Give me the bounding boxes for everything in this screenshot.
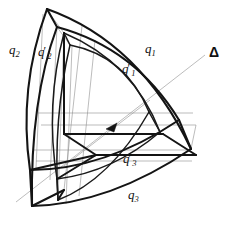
link-right-vert — [191, 125, 196, 149]
label-q2: q2 — [9, 43, 20, 56]
label-q1: q1 — [145, 42, 156, 55]
outer-arc-q1-back — [57, 27, 179, 120]
label-q3-prime: q′3 — [123, 152, 136, 165]
label-q2-sub: 2 — [16, 49, 20, 59]
label-q2p-prime: ′ — [44, 44, 47, 58]
label-q1p-sub: 1 — [131, 68, 135, 78]
label-q1-prime: q′1 — [122, 62, 135, 75]
inner-shell — [52, 33, 160, 200]
outer-shell — [26, 9, 191, 206]
construction-lines — [16, 10, 205, 206]
inner-edge-bottomleft — [57, 179, 58, 200]
outer-arc-q3 — [32, 149, 191, 206]
label-q1-base: q — [145, 41, 152, 56]
frame-right-diagonal — [163, 134, 196, 155]
interior-frame — [30, 33, 196, 206]
label-q2-prime: q′2 — [38, 45, 51, 58]
label-q2-base: q — [9, 42, 16, 57]
label-delta: Δ — [209, 45, 219, 59]
label-q2p-sub: 2 — [47, 51, 51, 61]
inner-edge-right — [149, 112, 160, 132]
label-q3: q3 — [128, 188, 139, 201]
label-q1p-prime: ′ — [128, 61, 131, 75]
label-q1-sub: 1 — [152, 48, 156, 58]
label-q3p-sub: 3 — [132, 158, 136, 168]
inner-arc-q2prime — [52, 33, 64, 179]
geometry-diagram — [0, 0, 240, 226]
label-q3-sub: 3 — [135, 194, 139, 204]
label-q3-base: q — [128, 187, 135, 202]
figure-container: q2 q′2 q1 q′1 q′3 q3 Δ — [0, 0, 240, 226]
label-q3p-prime: ′ — [129, 151, 132, 165]
inner-arc-q1prime-back — [70, 45, 149, 112]
